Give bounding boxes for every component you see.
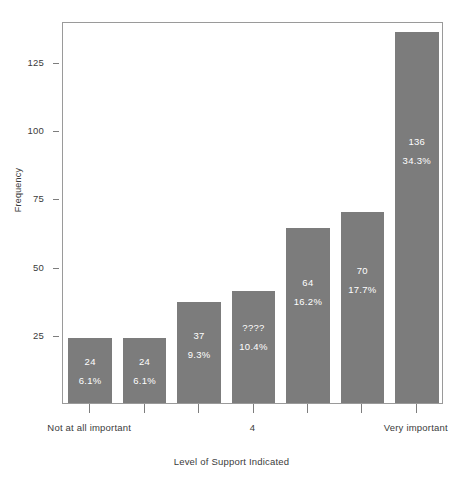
bar-percent-label: 9.3% [177,349,221,360]
y-tick-label: 75 [14,193,44,204]
bar: 246.1% [68,338,112,403]
x-tick-mark [416,404,417,413]
y-tick-mark [53,63,59,64]
y-tick-label: 100 [14,125,44,136]
bar-count-label: 24 [123,356,167,367]
bar-percent-label: 6.1% [123,375,167,386]
x-tick-label: Very important [384,422,448,433]
x-tick-mark [361,404,362,413]
bar-chart: Frequency 255075100125 246.1%246.1%379.3… [0,0,463,486]
x-tick-mark [198,404,199,413]
bar-count-label: 70 [341,265,385,276]
bar-count-label: 64 [286,277,330,288]
y-tick-mark [53,336,59,337]
bar-count-label: 24 [68,356,112,367]
x-tick-mark [253,404,254,413]
x-tick-label: Not at all important [47,422,131,433]
y-tick-label: 125 [14,57,44,68]
bar-percent-label: 17.7% [341,284,385,295]
bar: 246.1% [123,338,167,403]
bar-percent-label: 16.2% [286,296,330,307]
bar: 379.3% [177,302,221,403]
plot-area: 246.1%246.1%379.3%????10.4%6416.2%7017.7… [62,22,443,404]
y-tick-label: 25 [14,330,44,341]
y-axis-title: Frequency [13,140,23,240]
bar: 6416.2% [286,228,330,403]
bar-count-label: 37 [177,330,221,341]
x-axis-title: Level of Support Indicated [0,456,463,467]
bar: 7017.7% [341,212,385,403]
y-tick-mark [53,199,59,200]
y-tick-label: 50 [14,262,44,273]
bar-percent-label: 10.4% [232,341,276,352]
bar-count-label: 136 [395,136,439,147]
y-tick-mark [53,268,59,269]
y-tick-mark [53,131,59,132]
bar-percent-label: 34.3% [395,155,439,166]
x-tick-mark [307,404,308,413]
bar: 13634.3% [395,32,439,403]
x-tick-label: 4 [250,422,255,433]
bar-count-label: ???? [232,322,276,333]
x-tick-mark [144,404,145,413]
bar-percent-label: 6.1% [68,375,112,386]
bar: ????10.4% [232,291,276,403]
x-tick-mark [89,404,90,413]
